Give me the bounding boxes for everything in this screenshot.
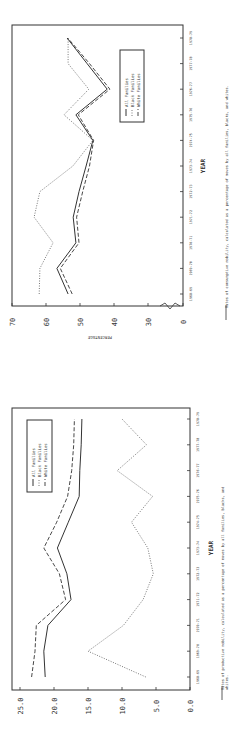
x-tick-label: 1977-78 <box>196 438 200 452</box>
x-tick-label: 1969-70 <box>189 261 193 275</box>
productive-mobility-chart: 0.05.010.015.020.025.0 1968-691969-70197… <box>12 408 229 714</box>
legend-label: White Families <box>136 73 141 107</box>
x-tick-label: 1969-70 <box>196 644 200 658</box>
chart-caption: Rates of consumptive mobility, calculate… <box>225 85 229 308</box>
x-axis-label: YEAR <box>207 540 214 555</box>
chart-caption-line2: whites. <box>225 675 229 690</box>
x-tick-label: 1970-71 <box>196 618 200 632</box>
series-all-families <box>44 419 82 677</box>
x-tick-label: 1976-77 <box>189 82 193 96</box>
y-tick-label: 20.0 <box>51 698 59 715</box>
x-tick-label: 1978-79 <box>196 412 200 426</box>
series-black-families <box>34 38 93 294</box>
x-tick-label: 1973-74 <box>189 159 193 173</box>
y-axis-ticks: 0.05.010.015.020.025.0 <box>17 687 195 714</box>
figure-page: 03040506070 1968-691969-701970-711971-72… <box>0 0 234 729</box>
chart-caption: Rates of productive mobility, calculated… <box>221 487 225 690</box>
y-tick-label: 50 <box>77 318 85 326</box>
x-tick-label: 1971-72 <box>196 592 200 606</box>
x-tick-label: 1972-73 <box>189 184 193 198</box>
y-tick-label: 30 <box>145 318 153 326</box>
x-tick-label: 1974-75 <box>196 515 200 529</box>
y-tick-label: 0.0 <box>187 700 195 713</box>
x-tick-label: 1977-78 <box>189 56 193 70</box>
x-tick-label: 1973-74 <box>196 541 200 555</box>
data-series <box>32 419 154 677</box>
y-tick-label: 40 <box>111 318 119 326</box>
consumptive-mobility-chart: 03040506070 1968-691969-701970-711971-72… <box>9 25 230 340</box>
y-tick-label: 25.0 <box>17 698 25 715</box>
legend-label: Black Families <box>37 443 42 477</box>
y-tick-label: 10.0 <box>119 698 127 715</box>
y-tick-label: 15.0 <box>85 698 93 715</box>
x-axis-label: YEAR <box>199 158 206 173</box>
x-tick-label: 1970-71 <box>189 236 193 250</box>
x-tick-label: 1971-72 <box>189 210 193 224</box>
legend-label: White Families <box>43 443 48 477</box>
x-tick-label: 1968-69 <box>196 670 200 684</box>
x-tick-label: 1975-76 <box>196 489 200 503</box>
y-tick-label: 5.0 <box>153 700 161 713</box>
y-tick-label: 0 <box>180 320 188 324</box>
series-all-families <box>57 38 107 294</box>
y-axis-label: PERCENTAGE <box>87 335 112 340</box>
legend-label: Black Families <box>130 73 135 107</box>
x-tick-label: 1975-76 <box>189 108 193 122</box>
legend-label: All Families <box>124 78 129 107</box>
series-white-families <box>60 38 110 294</box>
x-tick-label: 1976-77 <box>196 463 200 477</box>
y-tick-label: 60 <box>43 318 51 326</box>
y-tick-label: 70 <box>9 318 17 326</box>
x-tick-label: 1972-73 <box>196 567 200 581</box>
plot-frame <box>12 25 183 306</box>
x-tick-label: 1974-75 <box>189 133 193 147</box>
x-axis-ticks: 1968-691969-701970-711971-721972-731973-… <box>180 31 193 301</box>
legend: All FamiliesBlack FamiliesWhite Families <box>120 50 144 122</box>
x-tick-label: 1978-79 <box>189 31 193 45</box>
data-series <box>34 38 110 294</box>
legend-label: All Families <box>31 448 36 477</box>
x-axis-ticks: 1968-691969-701970-711971-721972-731973-… <box>187 412 200 684</box>
x-tick-label: 1968-69 <box>189 287 193 301</box>
series-black-families <box>88 419 153 677</box>
legend: All FamiliesBlack FamiliesWhite Families <box>27 420 52 492</box>
